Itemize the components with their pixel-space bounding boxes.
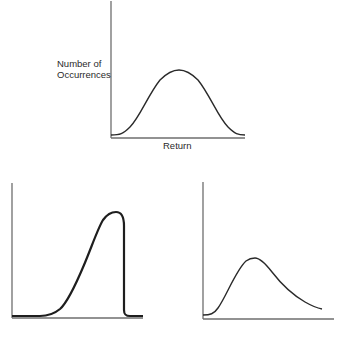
y-axis-label: Number of Occurrences [57,58,111,80]
x-axis-label: Return [163,140,192,151]
charts-canvas [0,0,341,340]
y-axis-label-line2: Occurrences [57,69,111,80]
negative-skew-curve [12,212,143,316]
chart-symmetric [111,1,245,138]
chart-negative-skew [12,183,143,318]
y-axis-label-line1: Number of [57,58,111,69]
symmetric-curve [111,70,245,135]
distribution-figure: Number of Occurrences Return [0,0,341,340]
chart-positive-skew [203,182,334,319]
positive-skew-curve [203,258,322,315]
